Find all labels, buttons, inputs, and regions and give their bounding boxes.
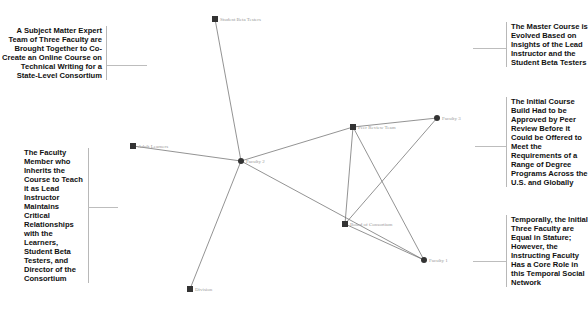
graph-edges bbox=[133, 19, 437, 289]
edge-faculty_2-faculty_1 bbox=[241, 161, 424, 260]
node-faculty_3 bbox=[434, 115, 440, 121]
node-label-faculty_2: Faculty 2 bbox=[246, 159, 265, 164]
node-label-faculty_3: Faculty 3 bbox=[442, 116, 461, 121]
edge-faculty_2-peer_review_team bbox=[241, 127, 353, 161]
node-peer_review_team bbox=[350, 124, 356, 130]
node-faculty_2 bbox=[238, 158, 244, 164]
node-label-adult_learners: Adult Learners bbox=[138, 144, 168, 149]
node-label-student_beta_testers: Student Beta Testers bbox=[220, 17, 261, 22]
edge-peer_review_team-faculty_1 bbox=[353, 127, 424, 260]
node-board_of_consortium bbox=[342, 221, 348, 227]
edge-peer_review_team-board_of_consortium bbox=[345, 127, 353, 224]
edge-faculty_2-division bbox=[190, 161, 241, 289]
social-network-graph: Student Beta TestersAdult LearnersFacult… bbox=[0, 0, 588, 309]
node-adult_learners bbox=[130, 143, 136, 149]
node-label-faculty_1: Faculty 1 bbox=[429, 258, 448, 263]
node-faculty_1 bbox=[421, 257, 427, 263]
node-label-division: Division bbox=[195, 287, 213, 292]
edge-faculty_3-board_of_consortium bbox=[345, 118, 437, 224]
edge-board_of_consortium-faculty_1 bbox=[345, 224, 424, 260]
node-division bbox=[187, 286, 193, 292]
graph-nodes: Student Beta TestersAdult LearnersFacult… bbox=[130, 16, 461, 292]
edge-student_beta_testers-faculty_2 bbox=[215, 19, 241, 161]
node-label-board_of_consortium: Board of Consortium bbox=[350, 222, 393, 227]
node-student_beta_testers bbox=[212, 16, 218, 22]
node-label-peer_review_team: Peer Review Team bbox=[358, 125, 396, 130]
